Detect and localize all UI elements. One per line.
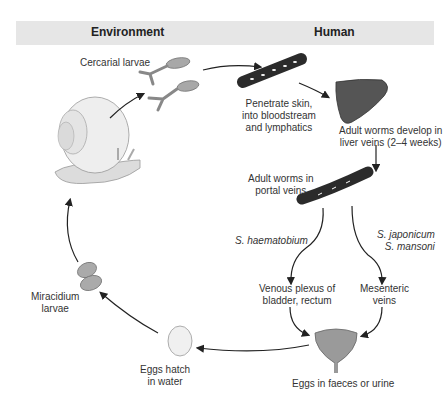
label-liver-veins: Adult worms develop inliver veins (2–4 w… xyxy=(339,125,442,149)
label-eggs-hatch: Eggs hatchin water xyxy=(140,364,190,388)
label-penetrate-skin: Penetrate skin,into bloodstreamand lymph… xyxy=(242,98,316,134)
skin-vessel-icon xyxy=(243,59,301,82)
liver-icon xyxy=(336,79,388,123)
label-eggs-faeces-urine: Eggs in faeces or urine xyxy=(292,378,394,390)
egg-icon xyxy=(168,326,192,356)
label-s-haematobium: S. haematobium xyxy=(235,235,308,247)
label-portal-veins: Adult worms inportal veins xyxy=(248,173,314,197)
label-s-japonicum-mansoni: S. japonicumS. mansoni xyxy=(377,229,435,253)
snail-icon xyxy=(55,97,140,184)
bladder-icon xyxy=(315,329,357,373)
label-venous-plexus: Venous plexus ofbladder, rectum xyxy=(259,283,335,307)
label-miracidium-larvae: Miracidiumlarvae xyxy=(31,291,79,315)
label-cercarial-larvae: Cercarial larvae xyxy=(80,57,150,69)
lifecycle-artwork xyxy=(0,0,446,402)
label-mesenteric-veins: Mesentericveins xyxy=(360,283,409,307)
miracidium-icon xyxy=(75,259,104,293)
